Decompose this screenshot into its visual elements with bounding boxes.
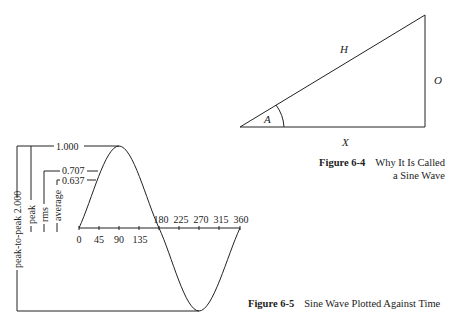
caption-text: Sine Wave Plotted Against Time (304, 298, 440, 309)
sine-wave-chart: 0 45 90 135 180 225 270 315 360 1.000 0.… (12, 140, 249, 311)
tick-315: 315 (214, 214, 229, 225)
peak-value: 1.000 (56, 141, 79, 152)
figure-6-4-caption: Figure 6-4Why It Is Called a Sine Wave (305, 156, 445, 182)
peak-label: peak (26, 205, 37, 224)
label-angle: A (263, 113, 271, 125)
figure-6-5-caption: Figure 6-5Sine Wave Plotted Against Time (248, 297, 440, 310)
peak-to-peak-label: peak-to-peak 2.000 (12, 191, 23, 268)
caption-number: Figure 6-5 (248, 298, 294, 309)
average-value: 0.637 (62, 175, 85, 186)
tick-360: 360 (234, 214, 249, 225)
tick-180: 180 (154, 214, 169, 225)
caption-line2: a Sine Wave (393, 170, 445, 181)
tick-135: 135 (133, 234, 148, 245)
tick-270: 270 (194, 214, 209, 225)
caption-line1: Why It Is Called (375, 157, 445, 168)
tick-90: 90 (114, 234, 124, 245)
caption-number: Figure 6-4 (319, 157, 365, 168)
tick-45: 45 (94, 234, 104, 245)
right-triangle-diagram: H O X A (240, 15, 442, 148)
tick-0: 0 (77, 234, 82, 245)
rms-label: rms (39, 207, 50, 222)
tick-225: 225 (174, 214, 189, 225)
average-label: average (52, 189, 63, 221)
label-adjacent: X (341, 136, 350, 148)
label-hypotenuse: H (339, 43, 349, 55)
label-opposite: O (434, 74, 442, 86)
